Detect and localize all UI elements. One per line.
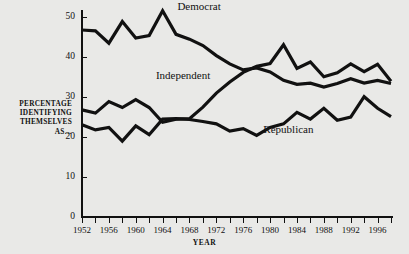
chart-series-lines — [0, 0, 409, 254]
series-line-independent — [82, 45, 391, 123]
series-label-independent: Independent — [156, 70, 210, 81]
chart-root: 01020304050 1952195619601964196819721976… — [0, 0, 409, 254]
series-label-republican: Republican — [263, 124, 313, 135]
series-label-democrat: Democrat — [177, 1, 220, 12]
